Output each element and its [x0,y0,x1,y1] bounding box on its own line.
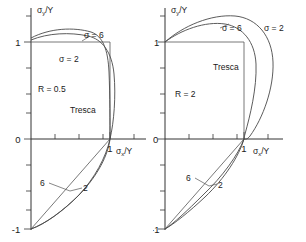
tresca-label-right: Tresca [213,62,239,72]
y-ticks-left [24,16,31,229]
leader-6-left [49,183,70,191]
y-tick-label-1-right: 1 [154,37,159,48]
x-ticks-left [55,132,134,139]
y-axis-title-right: σy/Y [171,5,188,16]
x-tick-label-1-left: 1 [107,143,112,154]
condition-label-right: R = 2 [175,89,196,99]
curve-label-2-left: 2 [83,183,88,193]
x-axis-title-right: σx/Y [253,146,270,157]
y-tick-label-0-left: 0 [15,134,20,145]
tresca-locus-lower-right [165,139,244,229]
curve-label-sigma-6-right: σ = 6 [222,23,242,33]
plot-left: σy/Y σx/Y 1 0 -1 1 σ = 6 σ = 2 R = 0.5 T… [0,0,153,242]
tresca-label-left: Tresca [70,105,96,115]
condition-label-left: R = 0.5 [38,84,66,94]
curve-label-6-right: 6 [186,173,191,183]
panel-r-0-5: σy/Y σx/Y 1 0 -1 1 σ = 6 σ = 2 R = 0.5 T… [0,0,153,242]
curve-label-2-right: 2 [218,180,223,190]
leader-6-right [195,178,209,186]
x-ticks-right [189,132,268,139]
figure-root: σy/Y σx/Y 1 0 -1 1 σ = 6 σ = 2 R = 0.5 T… [0,0,306,242]
curve-label-sigma-2-right: σ = 2 [264,23,284,33]
curve-sigma-6-right [165,23,256,229]
y-tick-label-1-left: 1 [15,37,20,48]
leader-2-left [70,188,82,191]
curve-label-sigma-6-left: σ = 6 [84,30,104,40]
y-axis-title-left: σy/Y [37,5,54,16]
x-axis-title-left: σx/Y [116,146,133,157]
panel-r-2: σy/Y σx/Y 1 0 -1 1 σ = 6 σ = 2 Tresca R … [153,0,306,242]
curve-label-6-left: 6 [40,178,45,188]
y-tick-label-0-right: 0 [153,134,158,145]
curve-label-sigma-2-left: σ = 2 [59,54,79,64]
y-tick-label-neg1-right: -1 [153,224,159,235]
curve-sigma-2-right [165,16,273,229]
x-tick-label-1-right: 1 [241,143,246,154]
y-tick-label-neg1-left: -1 [12,224,20,235]
plot-right: σy/Y σx/Y 1 0 -1 1 σ = 6 σ = 2 Tresca R … [153,0,306,242]
